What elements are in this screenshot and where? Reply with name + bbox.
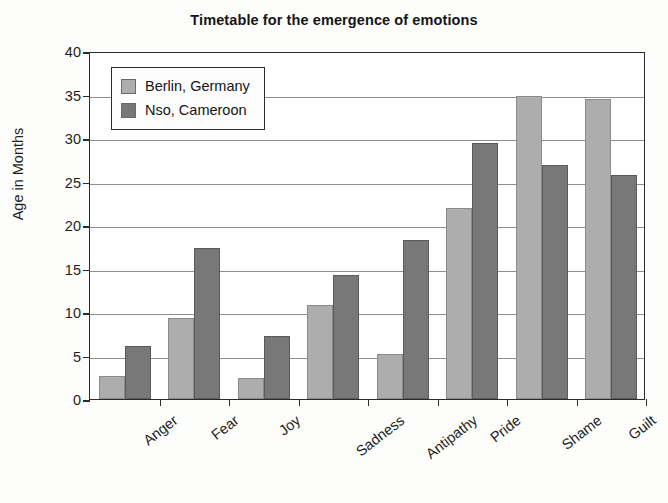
y-tick-label: 20: [41, 219, 81, 234]
bar-group: [299, 53, 369, 399]
y-tick-label: 35: [41, 89, 81, 104]
legend-label: Nso, Cameroon: [145, 102, 247, 118]
x-tick-mark: [646, 399, 647, 406]
y-tick-mark: [83, 226, 90, 227]
legend: Berlin, GermanyNso, Cameroon: [111, 67, 265, 130]
bar: [264, 336, 290, 400]
x-tick-label: Anger: [140, 412, 180, 448]
bar: [99, 376, 125, 399]
bar: [377, 354, 403, 399]
bar: [403, 240, 429, 399]
x-axis-tick-labels: AngerFearJoySadnessAntipathyPrideShameGu…: [89, 400, 645, 500]
bar-group: [577, 53, 647, 399]
bar: [125, 346, 151, 399]
legend-item[interactable]: Berlin, Germany: [121, 74, 250, 98]
x-tick-label: Antipathy: [423, 412, 481, 462]
y-tick-mark: [83, 357, 90, 358]
x-tick-label: Fear: [208, 412, 241, 443]
legend-label: Berlin, Germany: [145, 78, 250, 94]
y-tick-label: 30: [41, 132, 81, 147]
y-tick-label: 25: [41, 176, 81, 191]
bar: [585, 99, 611, 399]
x-tick-label: Guilt: [625, 412, 658, 443]
y-tick-mark: [83, 270, 90, 271]
y-axis-tick-labels: 4035302520151050: [33, 52, 81, 400]
y-axis-title: Age in Months: [10, 94, 26, 254]
legend-swatch-icon: [121, 79, 136, 94]
bar: [194, 248, 220, 399]
y-tick-mark: [83, 96, 90, 97]
bar: [307, 305, 333, 399]
y-tick-mark: [83, 139, 90, 140]
plot-area: Berlin, GermanyNso, Cameroon: [89, 52, 645, 400]
bar: [446, 208, 472, 399]
bar: [472, 143, 498, 399]
bar: [168, 318, 194, 399]
y-tick-label: 0: [41, 393, 81, 408]
legend-item[interactable]: Nso, Cameroon: [121, 98, 250, 122]
bar: [611, 175, 637, 399]
x-tick-label: Joy: [276, 412, 304, 439]
x-tick-label: Shame: [559, 412, 605, 453]
bar-group: [507, 53, 577, 399]
bar-group: [438, 53, 508, 399]
chart-title: Timetable for the emergence of emotions: [0, 12, 668, 28]
chart-figure: Timetable for the emergence of emotions …: [0, 0, 668, 503]
x-tick-label: Pride: [487, 412, 524, 445]
legend-swatch-icon: [121, 103, 136, 118]
bar: [333, 275, 359, 399]
y-tick-mark: [83, 313, 90, 314]
y-tick-label: 15: [41, 263, 81, 278]
y-tick-mark: [83, 52, 90, 53]
y-tick-mark: [83, 183, 90, 184]
x-tick-label: Sadness: [353, 412, 407, 459]
y-tick-label: 10: [41, 306, 81, 321]
y-tick-label: 5: [41, 350, 81, 365]
y-tick-label: 40: [41, 45, 81, 60]
bar-group: [368, 53, 438, 399]
bar: [542, 165, 568, 399]
bar: [238, 378, 264, 399]
bar: [516, 96, 542, 399]
